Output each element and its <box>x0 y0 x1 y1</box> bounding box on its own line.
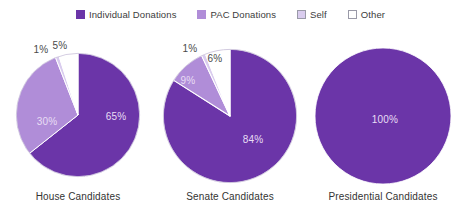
pie-caption-presidential: Presidential Candidates <box>328 191 437 202</box>
legend-item-label: Individual Donations <box>89 9 177 20</box>
pie-caption-house: House Candidates <box>36 191 121 202</box>
pie-chart-senate <box>163 49 297 183</box>
legend-swatch-icon <box>197 10 206 19</box>
pie-slice-value-label: 1% <box>183 43 198 54</box>
chart-canvas: Individual DonationsPAC DonationsSelfOth… <box>0 0 461 212</box>
legend-swatch-icon <box>348 10 357 19</box>
legend-item-label: Other <box>361 9 385 20</box>
pie-senate-svg <box>163 49 297 183</box>
legend-swatch-icon <box>76 10 85 19</box>
legend-item-label: Self <box>310 9 327 20</box>
pie-slice-value-label: 1% <box>34 44 49 55</box>
legend-swatch-icon <box>297 10 306 19</box>
pie-slice-value-label: 6% <box>208 53 223 64</box>
legend-item-individual-donations[interactable]: Individual Donations <box>76 9 177 20</box>
pie-slice-value-label: 84% <box>243 134 264 145</box>
legend-item-label: PAC Donations <box>210 9 276 20</box>
pie-slice-value-label: 5% <box>53 40 68 51</box>
pie-caption-senate: Senate Candidates <box>186 191 274 202</box>
pie-slice-value-label: 30% <box>37 116 58 127</box>
pie-slice-value-label: 65% <box>106 111 127 122</box>
legend-item-self[interactable]: Self <box>297 9 327 20</box>
chart-legend: Individual DonationsPAC DonationsSelfOth… <box>0 5 461 23</box>
legend-item-pac-donations[interactable]: PAC Donations <box>197 9 276 20</box>
pie-slice-value-label: 9% <box>181 75 196 86</box>
legend-item-other[interactable]: Other <box>348 9 385 20</box>
pie-slice-value-label: 100% <box>372 114 398 125</box>
